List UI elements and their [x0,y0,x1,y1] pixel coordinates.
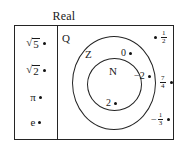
sqrt5-label: √ 5 [26,37,40,50]
fraction-seven-fourths: 7 4 [160,75,166,90]
e-label: e [31,117,36,128]
point-marker-negative-two [148,75,151,78]
set-label-q: Q [62,32,70,44]
point-marker-negative-one-third [167,118,170,121]
element-negative-one-third: − 1 3 [151,112,170,127]
point-marker-pi [39,96,42,99]
element-zero: 0 [121,48,132,58]
point-marker-e [38,121,41,124]
set-label-n: N [109,65,117,77]
set-label-z: Z [85,48,92,60]
diagram-title: Real [34,9,94,24]
point-marker-sqrt5 [43,42,46,45]
element-one-half: 1 2 [154,30,168,45]
point-marker-sqrt2 [43,69,46,72]
point-marker-two [114,102,117,105]
irrational-item-pi: π [30,92,42,103]
fraction-denominator: 2 [161,38,167,45]
point-marker-zero [129,52,132,55]
number-sets-venn-diagram: Real √ 5 √ 2 π e Q [0,0,189,153]
element-negative-two-label: −2 [134,71,145,81]
minus-sign-icon: − [151,115,157,125]
fraction-one-half: 1 2 [161,30,167,45]
sqrt5-radicand: 5 [32,38,40,50]
point-marker-one-half [154,36,157,39]
fraction-denominator: 3 [158,120,164,127]
rational-numbers-region: Q Z N 0 2 −2 1 2 [58,26,173,139]
pi-label: π [30,92,36,103]
element-seven-fourths: 7 4 [159,75,173,90]
fraction-one-third: 1 3 [158,112,164,127]
irrational-item-sqrt5: √ 5 [26,37,46,50]
element-two-label: 2 [106,98,111,108]
fraction-denominator: 4 [160,83,166,90]
sqrt2-radicand: 2 [32,65,40,77]
sqrt2-label: √ 2 [26,64,40,77]
irrational-numbers-column: √ 5 √ 2 π e [15,26,57,139]
irrational-item-sqrt2: √ 2 [26,64,46,77]
element-zero-label: 0 [121,48,126,58]
irrational-item-e: e [31,117,42,128]
element-negative-two: −2 [134,71,151,81]
point-marker-seven-fourths [170,81,173,84]
element-two: 2 [106,98,117,108]
